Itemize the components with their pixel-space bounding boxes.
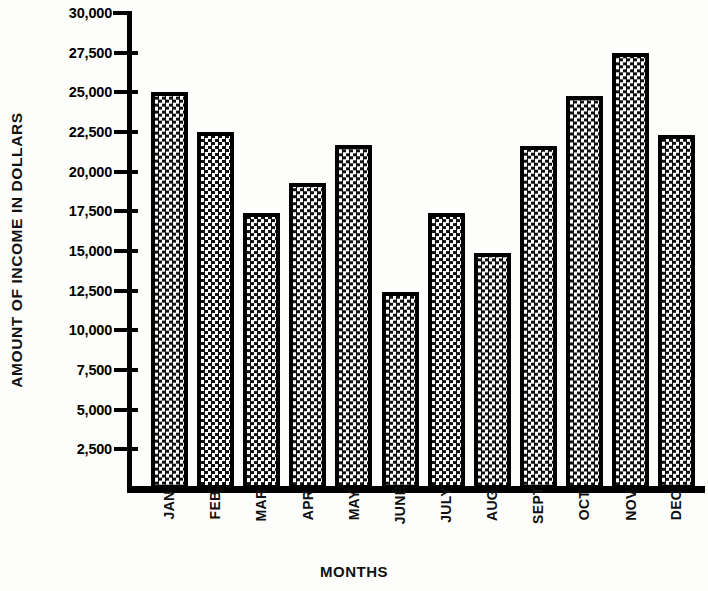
bar-nov bbox=[612, 53, 649, 489]
y-axis-tick-mark bbox=[114, 130, 138, 134]
x-axis-tick-label-text: MAY bbox=[346, 490, 362, 521]
y-axis-tick-mark bbox=[114, 90, 138, 94]
x-axis-tick-label-dec: DEC bbox=[645, 497, 708, 559]
y-axis-tick-mark bbox=[114, 447, 138, 451]
bar-mar bbox=[243, 213, 280, 489]
bar-jan bbox=[151, 92, 188, 489]
x-axis-tick-label-text: JULY bbox=[438, 487, 454, 523]
y-axis-tick-mark bbox=[114, 368, 138, 372]
bar-june bbox=[382, 292, 419, 489]
bar-chart: AMOUNT OF INCOME IN DOLLARS 2,5005,0007,… bbox=[0, 0, 708, 591]
y-axis-tick-mark bbox=[114, 408, 138, 412]
x-axis-tick-label-text: JAN bbox=[161, 491, 177, 520]
bar-apr bbox=[289, 183, 326, 489]
x-axis-tick-label-text: APR bbox=[300, 490, 316, 520]
y-axis-tick-mark bbox=[113, 11, 132, 15]
bar-may bbox=[335, 145, 372, 489]
x-axis-tick-label-text: SEPT bbox=[530, 486, 546, 524]
x-axis-tick-label-text: AUG bbox=[484, 489, 500, 521]
bar-oct bbox=[566, 96, 603, 489]
bar-aug bbox=[474, 253, 511, 489]
plot-area bbox=[0, 0, 708, 490]
x-axis-title: MONTHS bbox=[0, 563, 708, 580]
x-axis-tick-label-text: FEB bbox=[208, 491, 224, 520]
x-axis-tick-label-text: DEC bbox=[669, 490, 685, 520]
bar-feb bbox=[197, 132, 234, 489]
bar-sept bbox=[520, 146, 557, 489]
y-axis-tick-mark bbox=[114, 328, 138, 332]
bar-july bbox=[428, 213, 465, 489]
y-axis-tick-mark bbox=[114, 289, 138, 293]
y-axis-tick-mark bbox=[114, 209, 138, 213]
y-axis-tick-mark bbox=[114, 170, 138, 174]
x-axis-tick-label-text: MAR bbox=[254, 489, 270, 522]
x-axis-tick-label-text: OCT bbox=[576, 490, 592, 520]
x-axis-tick-label-text: JUNE bbox=[392, 486, 408, 525]
y-axis-tick-mark bbox=[114, 51, 138, 55]
y-axis-tick-mark bbox=[114, 249, 138, 253]
x-axis-tick-label-text: NOV bbox=[623, 489, 639, 520]
bar-dec bbox=[658, 135, 695, 489]
